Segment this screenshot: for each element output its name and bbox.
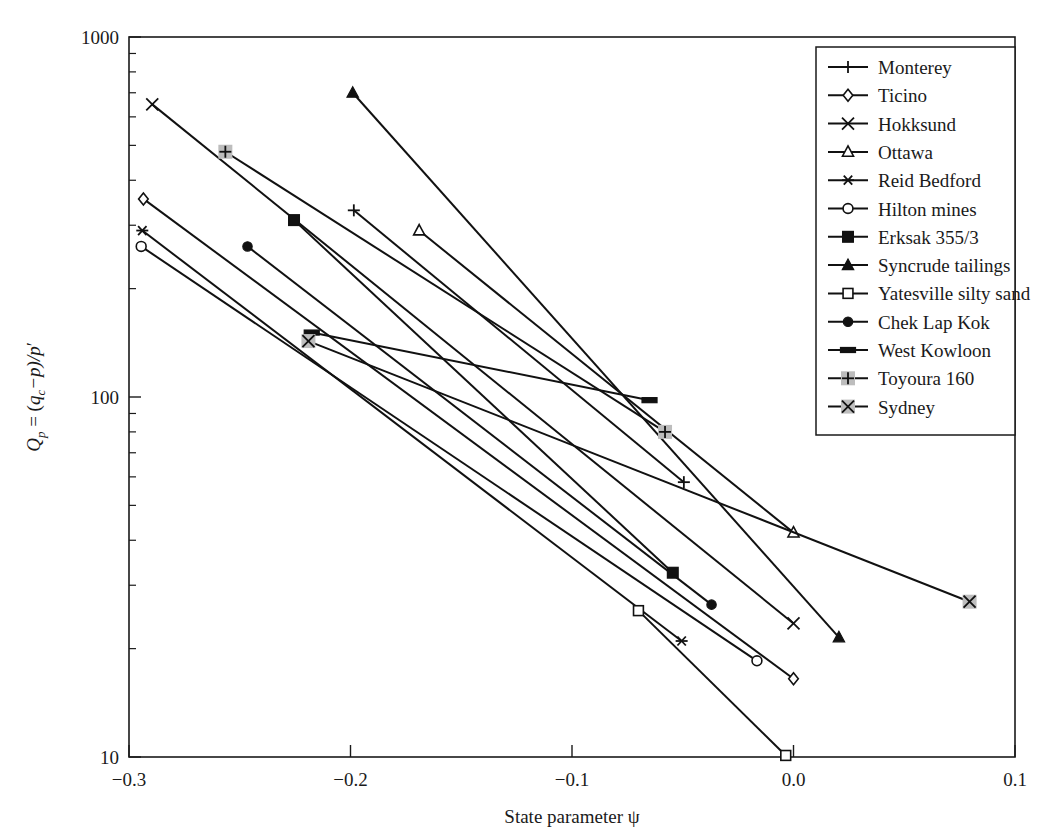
legend-label: Reid Bedford [878,170,981,191]
data-marker [136,241,146,251]
series-path [354,210,684,482]
data-marker [843,231,854,242]
legend-label: West Kowloon [878,340,991,361]
legend-label: Hokksund [878,114,957,135]
series-path [248,246,712,604]
series-hilton-mines [136,241,762,665]
y-axis: 101001000 [81,27,141,768]
legend-label: Ottawa [878,142,933,163]
data-marker [642,398,657,403]
svg-text:Qp = (qc−p)/p′: Qp = (qc−p)/p′ [23,342,48,452]
data-marker [843,204,853,214]
data-marker [707,600,716,609]
series-path [638,611,785,756]
y-tick-label: 100 [91,387,120,408]
data-marker [301,334,315,348]
data-marker [658,425,672,439]
legend-label: Ticino [878,85,927,106]
series-path [353,93,839,638]
series-erksak-355-3 [289,215,679,578]
data-marker [347,87,358,98]
series-path [142,231,681,641]
data-marker [789,673,799,685]
series-chek-lap-kok [243,242,716,610]
x-tick-label: −0.1 [555,769,589,790]
x-tick-label: −0.2 [333,769,367,790]
y-tick-label: 1000 [81,27,119,48]
x-tick-label: 0.0 [782,769,806,790]
series-reid-bedford [136,226,687,645]
log-scatter-line-chart: 101001000−0.3−0.2−0.10.00.1State paramet… [0,0,1058,840]
legend-label: Syncrude tailings [878,255,1010,276]
data-marker [841,371,855,385]
series-path [225,152,665,432]
data-marker [843,288,853,298]
legend-label: Hilton mines [878,199,977,220]
series-path [294,220,673,573]
legend-label: Erksak 355/3 [878,227,979,248]
data-marker [139,193,149,205]
series-ottawa [414,225,799,537]
data-marker [788,617,800,629]
x-tick-label: −0.3 [112,769,146,790]
data-marker [634,606,644,616]
data-marker [841,400,855,414]
data-marker [218,145,232,159]
series-monterey [348,204,690,488]
data-marker [781,751,791,761]
legend-label: Monterey [878,57,952,78]
series-ticino [139,193,799,685]
x-tick-label: 0.1 [1003,769,1027,790]
data-marker [146,98,158,110]
x-axis-title: State parameter ψ [504,806,639,827]
data-marker [414,225,425,235]
series-path [141,246,757,660]
legend-label: Sydney [878,397,936,418]
legend-label: Toyoura 160 [878,368,974,389]
data-marker [963,595,977,609]
chart-figure: 101001000−0.3−0.2−0.10.00.1State paramet… [0,0,1058,840]
x-axis: −0.3−0.2−0.10.00.1 [112,745,1027,790]
data-marker [752,656,762,666]
legend: MontereyTicinoHokksundOttawaReid Bedford… [816,47,1031,435]
series-syncrude-tailings [347,87,845,642]
y-axis-title: Qp = (qc−p)/p′ [23,342,48,452]
data-marker [243,242,252,251]
legend-label: Yatesville silty sand [878,283,1031,304]
y-tick-label: 10 [100,747,119,768]
series-path [419,231,793,533]
series-yatesville-silty-sand [634,606,791,761]
data-marker [289,215,300,226]
legend-label: Chek Lap Kok [878,312,990,333]
data-marker [843,317,852,326]
data-marker [841,347,856,352]
